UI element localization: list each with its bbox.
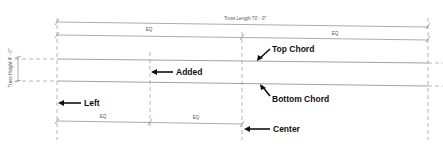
bottom-chord bbox=[57, 81, 428, 86]
truss-diagram: Truss Length 70' - 0" EQ EQ EQ EQ Truss … bbox=[0, 0, 443, 146]
top-chord-callout: Top Chord bbox=[272, 44, 314, 54]
eq-label: EQ bbox=[100, 114, 107, 119]
arrowhead-icon bbox=[151, 69, 157, 75]
added-callout: Added bbox=[176, 67, 202, 77]
bottom-chord-callout: Bottom Chord bbox=[272, 94, 329, 104]
arrowhead-icon bbox=[244, 126, 250, 132]
truss-length-label: Truss Length 70' - 0" bbox=[224, 16, 267, 21]
arrowhead-icon bbox=[58, 100, 64, 106]
top-chord bbox=[57, 59, 428, 63]
truss-height-label: Truss Height 4' - 0" bbox=[8, 48, 13, 87]
eq-label: EQ bbox=[146, 27, 153, 32]
truss-length-dimension-line bbox=[57, 22, 428, 27]
left-callout: Left bbox=[84, 98, 100, 108]
center-callout: Center bbox=[273, 124, 301, 134]
eq-label: EQ bbox=[193, 115, 200, 120]
eq-label: EQ bbox=[332, 31, 339, 36]
